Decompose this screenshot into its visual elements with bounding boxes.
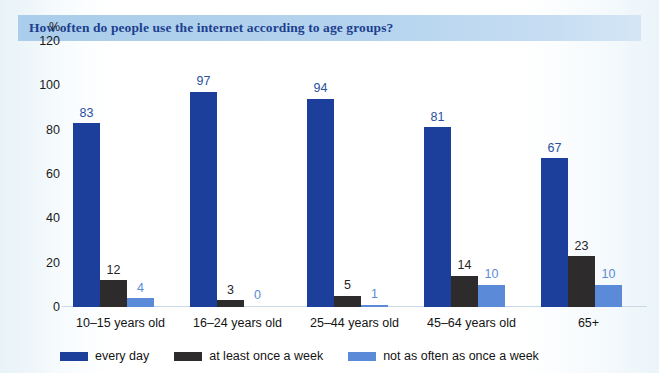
bar-group: 83124	[62, 41, 179, 307]
plot-area: % 020406080100120 8312497309451811410672…	[0, 41, 659, 373]
legend-label: every day	[95, 350, 149, 363]
bar-group: 811410	[413, 41, 530, 307]
legend-item[interactable]: every day	[60, 350, 149, 363]
y-axis-tick-label: 120	[18, 35, 60, 48]
bars-area: 8312497309451811410672310	[62, 41, 647, 307]
bar-value-label: 94	[301, 82, 340, 95]
bar-0	[307, 99, 334, 307]
bar-value-label: 67	[535, 142, 574, 155]
y-axis-unit-label: %	[18, 21, 60, 34]
bar-value-label: 12	[94, 264, 133, 277]
bar-value-label: 1	[355, 288, 394, 301]
legend-swatch-icon	[60, 352, 88, 361]
bar-0	[541, 158, 568, 307]
chart-page: How often do people use the internet acc…	[0, 0, 659, 373]
y-axis-tick-label: 80	[18, 124, 60, 137]
bar-value-label: 81	[418, 111, 457, 124]
bar-value-label: 10	[589, 268, 628, 281]
y-axis-tick-label: 60	[18, 168, 60, 181]
bar-0	[190, 92, 217, 307]
y-axis-tick-label: 40	[18, 212, 60, 225]
legend-item[interactable]: at least once a week	[174, 350, 323, 363]
y-axis-tick-label: 0	[18, 301, 60, 314]
bar-group: 9451	[296, 41, 413, 307]
chart-legend: every dayat least once a weeknot as ofte…	[0, 345, 659, 367]
bar-value-label: 10	[472, 268, 511, 281]
y-axis-tick-label: 20	[18, 257, 60, 270]
chart-title-band: How often do people use the internet acc…	[18, 15, 641, 41]
bar-2	[361, 305, 388, 307]
bar-group: 672310	[530, 41, 647, 307]
bar-2	[595, 285, 622, 307]
bar-2	[127, 298, 154, 307]
bar-value-label: 4	[121, 282, 160, 295]
bar-value-label: 23	[562, 240, 601, 253]
bar-0	[424, 127, 451, 307]
bar-1	[568, 256, 595, 307]
legend-swatch-icon	[348, 352, 376, 361]
legend-label: not as often as once a week	[383, 350, 539, 363]
category-label: 65+	[520, 317, 657, 330]
bar-value-label: 97	[184, 75, 223, 88]
page-title: How often do people use the internet acc…	[18, 20, 393, 36]
legend-item[interactable]: not as often as once a week	[348, 350, 539, 363]
bar-2	[478, 285, 505, 307]
bar-value-label: 83	[67, 107, 106, 120]
category-labels: 10–15 years old16–24 years old25–44 year…	[62, 317, 647, 337]
legend-label: at least once a week	[209, 350, 323, 363]
bar-0	[73, 123, 100, 307]
y-axis: % 020406080100120	[18, 41, 60, 351]
y-axis-tick-label: 100	[18, 79, 60, 92]
bar-group: 9730	[179, 41, 296, 307]
bar-1	[217, 300, 244, 307]
legend-swatch-icon	[174, 352, 202, 361]
bar-value-label: 0	[238, 289, 277, 302]
